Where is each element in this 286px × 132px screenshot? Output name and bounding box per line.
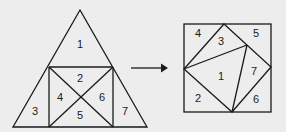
square-piece-7-label: 7 [251, 65, 257, 77]
square-piece-1-label: 1 [218, 70, 224, 82]
arrow-right-icon [131, 64, 168, 73]
square-piece-5-label: 5 [253, 27, 259, 39]
triangle-piece-7-label: 7 [122, 105, 128, 117]
triangle-piece-5-label: 5 [77, 109, 83, 121]
triangle-piece-2-label: 2 [77, 72, 83, 84]
triangle-figure: 1 2 3 4 5 6 7 [13, 10, 147, 127]
square-piece-2-label: 2 [195, 92, 201, 104]
square-figure: 1 2 3 4 5 6 7 [184, 24, 271, 112]
square-piece-4-label: 4 [195, 27, 201, 39]
square-cut-1 [184, 45, 247, 69]
dissection-diagram: 1 2 3 4 5 6 7 1 2 3 4 5 6 7 [0, 0, 286, 132]
triangle-piece-3-label: 3 [32, 105, 38, 117]
triangle-piece-1-label: 1 [77, 38, 83, 50]
square-piece-3-label: 3 [218, 35, 224, 47]
triangle-piece-6-label: 6 [99, 91, 105, 103]
square-cut-2 [232, 45, 247, 112]
triangle-piece-4-label: 4 [57, 91, 63, 103]
square-piece-6-label: 6 [253, 93, 259, 105]
